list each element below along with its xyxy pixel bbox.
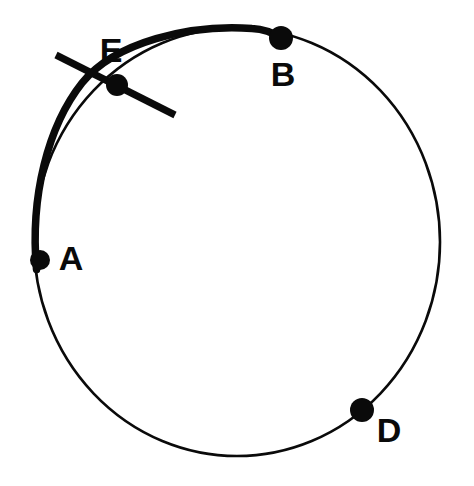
point-marker-B <box>269 26 293 50</box>
point-marker-A <box>30 250 50 270</box>
point-marker-D <box>350 398 374 422</box>
point-marker-E <box>106 74 128 96</box>
point-label-E: E <box>100 31 123 69</box>
point-label-B: B <box>271 55 296 93</box>
circle-diagram-svg: A B D E <box>0 0 474 486</box>
point-label-D: D <box>377 411 402 449</box>
circle-outline <box>34 28 440 456</box>
geometry-diagram-canvas: A B D E <box>0 0 474 486</box>
point-label-A: A <box>59 239 84 277</box>
